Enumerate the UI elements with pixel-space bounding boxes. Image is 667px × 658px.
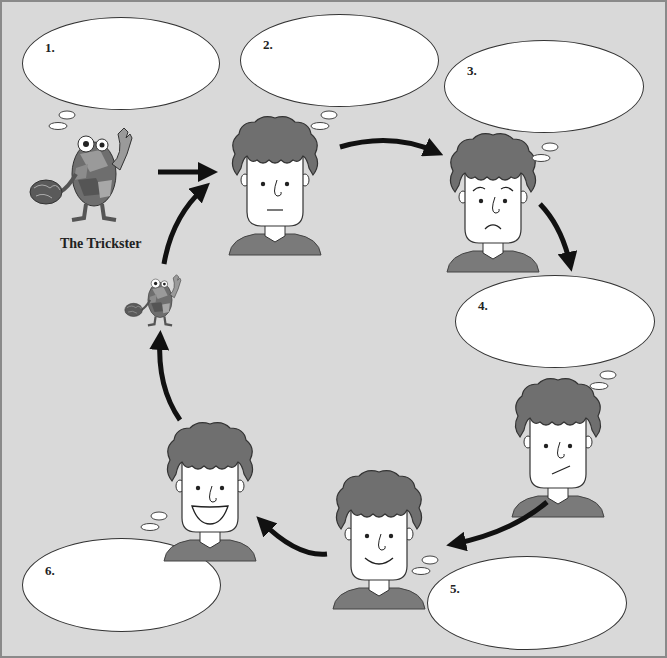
face-doubtful (512, 379, 604, 517)
trickster-figure (30, 128, 132, 220)
diagram-graphics (2, 2, 667, 658)
face-big-smile (164, 423, 256, 561)
trickster-label: The Trickster (60, 236, 142, 252)
face-sad (447, 134, 539, 272)
trickster-figure-small (125, 275, 181, 326)
face-neutral (229, 117, 321, 255)
worksheet-canvas: 1. 2. 3. 4. 5. 6. (0, 0, 667, 658)
face-smile (333, 471, 425, 609)
